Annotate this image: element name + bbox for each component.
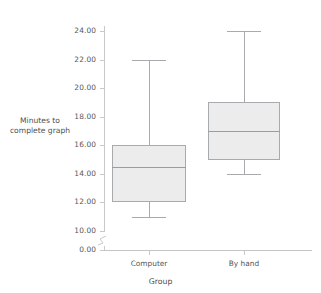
upper-whisker-cap [227,31,261,32]
y-tick-label: 12.00 [52,198,96,206]
upper-whisker-line [244,31,245,102]
upper-whisker-cap [132,60,166,61]
y-tick-label: 16.00 [52,141,96,149]
x-axis-line [104,250,312,251]
y-axis-tick-labels: 24.0022.0020.0018.0016.0014.0012.0010.00… [52,0,96,293]
x-category-label-by-hand: By hand [204,259,284,268]
median-line [112,167,186,168]
y-tick-label: 10.00 [52,227,96,235]
boxplot-chart: Minutes to complete graph 24.0022.0020.0… [0,0,321,293]
y-tick-label: 14.00 [52,170,96,178]
median-line [208,131,280,132]
y-tick-label: 22.00 [52,56,96,64]
y-axis-line [104,26,105,231]
x-axis-title: Group [0,277,321,286]
y-tick-label: 24.00 [52,27,96,35]
lower-whisker-cap [132,217,166,218]
y-tick-label: 18.00 [52,113,96,121]
x-category-label-computer: Computer [109,259,189,268]
x-tick-mark [149,251,150,255]
x-tick-mark [244,251,245,255]
axis-break-icon [96,232,114,250]
lower-whisker-line [244,160,245,174]
lower-whisker-cap [227,174,261,175]
lower-whisker-line [149,202,150,216]
upper-whisker-line [149,60,150,146]
y-tick-label: 0.00 [52,246,96,254]
box-rect [112,145,186,202]
y-tick-label: 20.00 [52,84,96,92]
